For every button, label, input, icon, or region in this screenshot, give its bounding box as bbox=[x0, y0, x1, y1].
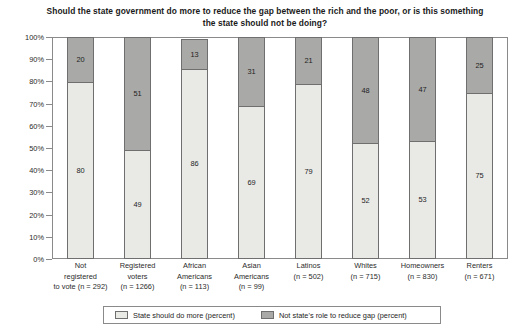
bar-stack: 1386 bbox=[181, 39, 208, 259]
legend-label: Not state's role to reduce gap (percent) bbox=[279, 311, 407, 320]
bar-segment-not-states-role[interactable]: 13 bbox=[181, 39, 208, 68]
y-axis-tick-mark bbox=[46, 259, 52, 260]
y-axis: 100%90%80%70%60%50%40%30%20%10%0% bbox=[0, 0, 52, 335]
legend: State should do more (percent) Not state… bbox=[103, 306, 441, 324]
x-axis-label-line: Americans bbox=[223, 272, 280, 283]
bar-segment-state-should-do-more[interactable]: 69 bbox=[238, 106, 265, 259]
bar-segment-state-should-do-more[interactable]: 49 bbox=[124, 150, 151, 259]
y-axis-tick-label: 50% bbox=[29, 144, 44, 153]
x-axis-category-label: AfricanAmericans(n = 113) bbox=[166, 261, 223, 293]
bar-value-label: 51 bbox=[133, 90, 141, 97]
bar-value-label: 86 bbox=[190, 160, 198, 167]
legend-swatch-icon bbox=[261, 311, 274, 319]
y-axis-tick-label: 100% bbox=[25, 33, 44, 42]
x-axis-label-line: (n = 1266) bbox=[109, 282, 166, 293]
bar-value-label: 47 bbox=[418, 86, 426, 93]
bar-stack: 3169 bbox=[238, 37, 265, 259]
bar-segment-state-should-do-more[interactable]: 79 bbox=[295, 84, 322, 259]
bar-segment-not-states-role[interactable]: 20 bbox=[67, 37, 94, 82]
bar-value-label: 69 bbox=[247, 179, 255, 186]
x-axis-category-label: Notregisteredto vote (n = 292) bbox=[52, 261, 109, 293]
y-axis-tick-label: 90% bbox=[29, 55, 44, 64]
bar-value-label: 31 bbox=[247, 68, 255, 75]
bar-column[interactable]: 3169 bbox=[238, 37, 265, 259]
x-axis-label-line: Americans bbox=[166, 272, 223, 283]
x-axis-label-line: Registered bbox=[109, 261, 166, 272]
bar-stack: 2575 bbox=[466, 37, 493, 259]
x-axis-label-line: Whites bbox=[337, 261, 394, 272]
bar-segment-state-should-do-more[interactable]: 86 bbox=[181, 69, 208, 259]
bar-column[interactable]: 1386 bbox=[181, 37, 208, 259]
x-axis-label-line: voters bbox=[109, 272, 166, 283]
x-axis-label-line: Latinos bbox=[280, 261, 337, 272]
bar-segment-not-states-role[interactable]: 51 bbox=[124, 37, 151, 150]
y-axis-tick-label: 0% bbox=[33, 255, 44, 264]
x-axis-label-line: (n = 715) bbox=[337, 272, 394, 283]
bar-value-label: 75 bbox=[475, 172, 483, 179]
bar-segment-not-states-role[interactable]: 47 bbox=[409, 37, 436, 141]
x-axis-category-label: Registeredvoters(n = 1266) bbox=[109, 261, 166, 293]
y-axis-tick-label: 60% bbox=[29, 121, 44, 130]
y-axis-tick-label: 80% bbox=[29, 77, 44, 86]
y-axis-tick-label: 20% bbox=[29, 210, 44, 219]
chart-title: Should the state government do more to r… bbox=[40, 5, 490, 29]
bar-value-label: 13 bbox=[190, 51, 198, 58]
bar-segment-state-should-do-more[interactable]: 75 bbox=[466, 93, 493, 259]
legend-swatch-icon bbox=[115, 311, 128, 319]
x-axis-label-line: Not bbox=[52, 261, 109, 272]
y-axis-tick-label: 10% bbox=[29, 232, 44, 241]
x-axis-label-line: Asian bbox=[223, 261, 280, 272]
bar-column[interactable]: 2179 bbox=[295, 37, 322, 259]
x-axis-label-line: Homeowners bbox=[394, 261, 451, 272]
bar-value-label: 49 bbox=[133, 201, 141, 208]
chart-container: Should the state government do more to r… bbox=[0, 0, 525, 335]
bar-value-label: 48 bbox=[361, 87, 369, 94]
x-axis-label-line: registered bbox=[52, 272, 109, 283]
x-axis-category-label: Homeowners(n = 830) bbox=[394, 261, 451, 282]
bar-stack: 4852 bbox=[352, 37, 379, 259]
bar-column[interactable]: 4753 bbox=[409, 37, 436, 259]
bar-segment-not-states-role[interactable]: 21 bbox=[295, 37, 322, 84]
y-axis-tick-label: 40% bbox=[29, 166, 44, 175]
x-axis-label-line: (n = 502) bbox=[280, 272, 337, 283]
bar-column[interactable]: 2575 bbox=[466, 37, 493, 259]
x-axis-label-line: African bbox=[166, 261, 223, 272]
bar-segment-state-should-do-more[interactable]: 53 bbox=[409, 141, 436, 259]
bar-value-label: 21 bbox=[304, 57, 312, 64]
x-axis-label-line: Renters bbox=[451, 261, 508, 272]
bars-layer: 20805149138631692179485247532575 bbox=[52, 37, 508, 259]
x-axis-category-label: Renters(n = 671) bbox=[451, 261, 508, 282]
bar-stack: 2080 bbox=[67, 37, 94, 259]
bar-value-label: 25 bbox=[475, 62, 483, 69]
bar-column[interactable]: 4852 bbox=[352, 37, 379, 259]
x-axis-category-label: Latinos(n = 502) bbox=[280, 261, 337, 282]
legend-item-not-states-role: Not state's role to reduce gap (percent) bbox=[261, 311, 407, 320]
legend-label: State should do more (percent) bbox=[133, 311, 235, 320]
bar-stack: 4753 bbox=[409, 37, 436, 259]
bar-segment-not-states-role[interactable]: 31 bbox=[238, 37, 265, 106]
x-axis-label-line: (n = 113) bbox=[166, 282, 223, 293]
y-axis-tick-label: 30% bbox=[29, 188, 44, 197]
y-axis-tick-label: 70% bbox=[29, 99, 44, 108]
x-axis-category-label: AsianAmericans(n = 99) bbox=[223, 261, 280, 293]
bar-stack: 5149 bbox=[124, 37, 151, 259]
bar-segment-state-should-do-more[interactable]: 52 bbox=[352, 143, 379, 259]
x-axis-label-line: (n = 671) bbox=[451, 272, 508, 283]
bar-stack: 2179 bbox=[295, 37, 322, 259]
bar-segment-not-states-role[interactable]: 48 bbox=[352, 37, 379, 143]
bar-value-label: 79 bbox=[304, 168, 312, 175]
bar-column[interactable]: 2080 bbox=[67, 37, 94, 259]
legend-item-state-should-do-more: State should do more (percent) bbox=[115, 311, 235, 320]
bar-segment-state-should-do-more[interactable]: 80 bbox=[67, 82, 94, 259]
bar-value-label: 52 bbox=[361, 197, 369, 204]
bar-value-label: 53 bbox=[418, 196, 426, 203]
bar-column[interactable]: 5149 bbox=[124, 37, 151, 259]
x-axis-labels: Notregisteredto vote (n = 292)Registered… bbox=[52, 261, 508, 305]
bar-value-label: 80 bbox=[76, 167, 84, 174]
x-axis-label-line: to vote (n = 292) bbox=[52, 282, 109, 293]
x-axis-label-line: (n = 830) bbox=[394, 272, 451, 283]
bar-value-label: 20 bbox=[76, 56, 84, 63]
x-axis-label-line: (n = 99) bbox=[223, 282, 280, 293]
bar-segment-not-states-role[interactable]: 25 bbox=[466, 37, 493, 93]
x-axis-category-label: Whites(n = 715) bbox=[337, 261, 394, 282]
